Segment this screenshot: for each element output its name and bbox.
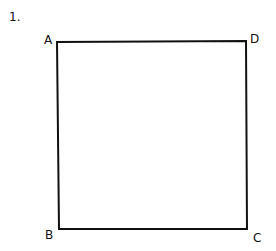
square-shape [0, 0, 276, 251]
vertex-label-a: A [44, 34, 52, 46]
vertex-label-c: C [253, 232, 261, 244]
vertex-label-b: B [45, 229, 53, 241]
vertex-label-d: D [250, 33, 259, 45]
figure-number: 1. [9, 11, 20, 23]
